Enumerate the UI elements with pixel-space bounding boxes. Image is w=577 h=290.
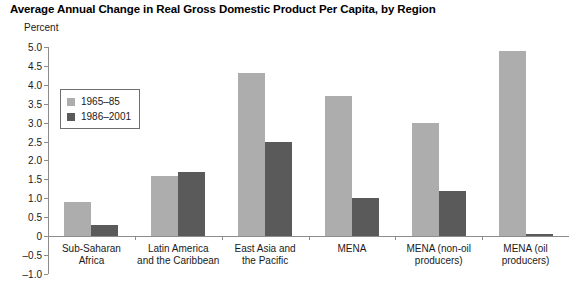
bar-group bbox=[64, 47, 118, 236]
legend-label: 1965–85 bbox=[81, 96, 120, 107]
x-axis-category-label: MENA (non-oilproducers) bbox=[395, 243, 482, 267]
y-axis-tick-mark bbox=[44, 66, 48, 67]
y-axis-tick-label: –1.0 bbox=[23, 268, 42, 279]
plot-area: 5.04.54.03.53.02.52.01.51.00.50–0.5–1.0 … bbox=[48, 47, 569, 274]
bar[interactable] bbox=[265, 142, 292, 237]
bar[interactable] bbox=[91, 225, 118, 236]
y-axis-tick-mark bbox=[44, 198, 48, 199]
y-axis-tick-mark bbox=[44, 104, 48, 105]
legend-item[interactable]: 1986–2001 bbox=[67, 109, 131, 124]
y-axis-tick-label: 2.5 bbox=[28, 136, 42, 147]
y-axis-tick-label: –0.5 bbox=[23, 249, 42, 260]
y-axis-tick-mark bbox=[44, 142, 48, 143]
x-axis-category-label: Sub-SaharanAfrica bbox=[48, 243, 135, 267]
bar[interactable] bbox=[178, 172, 205, 236]
y-axis-tick-mark bbox=[44, 47, 48, 48]
x-axis-category-label: MENA bbox=[309, 243, 396, 255]
bar-group bbox=[412, 47, 466, 236]
x-axis-group-tick bbox=[395, 236, 396, 240]
bar-group bbox=[151, 47, 205, 236]
y-axis-tick-mark bbox=[44, 123, 48, 124]
y-axis-tick-label: 1.0 bbox=[28, 193, 42, 204]
y-axis-tick-mark bbox=[44, 236, 48, 237]
bar[interactable] bbox=[151, 176, 178, 236]
bar[interactable] bbox=[526, 234, 553, 236]
legend-swatch-icon bbox=[67, 113, 75, 121]
y-axis-tick-mark bbox=[44, 274, 48, 275]
y-axis-tick-mark bbox=[44, 217, 48, 218]
x-axis-group-tick bbox=[482, 236, 483, 240]
y-axis-tick-mark bbox=[44, 179, 48, 180]
y-axis-tick-label: 0.5 bbox=[28, 212, 42, 223]
bar[interactable] bbox=[64, 202, 91, 236]
x-axis-group-tick bbox=[309, 236, 310, 240]
x-axis-category-label: Latin Americaand the Caribbean bbox=[135, 243, 222, 267]
y-axis-spine bbox=[48, 47, 49, 274]
bar[interactable] bbox=[499, 51, 526, 236]
bar[interactable] bbox=[238, 73, 265, 236]
bar-group bbox=[238, 47, 292, 236]
y-axis-tick-mark bbox=[44, 160, 48, 161]
x-axis-group-tick bbox=[135, 236, 136, 240]
y-axis-tick-label: 1.5 bbox=[28, 174, 42, 185]
bar[interactable] bbox=[439, 191, 466, 236]
bar[interactable] bbox=[325, 96, 352, 236]
legend-swatch-icon bbox=[67, 98, 75, 106]
y-axis-tick-label: 3.5 bbox=[28, 98, 42, 109]
bar[interactable] bbox=[352, 198, 379, 236]
chart-title: Average Annual Change in Real Gross Dome… bbox=[10, 3, 436, 15]
y-axis-tick-label: 0 bbox=[36, 231, 42, 242]
y-axis-tick-label: 4.0 bbox=[28, 79, 42, 90]
y-axis-unit-label: Percent bbox=[24, 22, 58, 33]
x-axis-category-label: MENA (oilproducers) bbox=[482, 243, 569, 267]
y-axis-tick-label: 2.0 bbox=[28, 155, 42, 166]
legend-label: 1986–2001 bbox=[81, 111, 131, 122]
x-axis-group-tick bbox=[222, 236, 223, 240]
chart-legend: 1965–851986–2001 bbox=[60, 89, 140, 129]
bar-group bbox=[499, 47, 553, 236]
y-axis-tick-label: 4.5 bbox=[28, 60, 42, 71]
x-axis-category-label: East Asia andthe Pacific bbox=[222, 243, 309, 267]
bar[interactable] bbox=[412, 123, 439, 236]
legend-item[interactable]: 1965–85 bbox=[67, 94, 131, 109]
bar-group bbox=[325, 47, 379, 236]
y-axis-tick-label: 5.0 bbox=[28, 42, 42, 53]
y-axis-tick-label: 3.0 bbox=[28, 117, 42, 128]
y-axis-tick-mark bbox=[44, 85, 48, 86]
